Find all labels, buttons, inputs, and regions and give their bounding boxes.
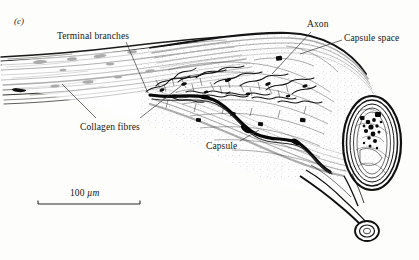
figure-panel: (c) Terminal branches Axon Capsule space…	[0, 0, 419, 260]
label-terminal-branches: Terminal branches	[57, 31, 129, 41]
label-collagen-fibres: Collagen fibres	[80, 122, 140, 132]
label-axon: Axon	[307, 19, 329, 29]
corpuscle-cross-section	[343, 96, 402, 190]
panel-identifier: (c)	[14, 16, 24, 26]
label-capsule: Capsule	[206, 141, 237, 151]
scale-bar-label: 100 µm	[70, 188, 100, 198]
scale-bar-value: 100	[70, 188, 85, 198]
scale-bar-unit: µm	[87, 188, 100, 198]
stalk-end-ring	[355, 221, 379, 241]
label-capsule-space: Capsule space	[344, 33, 399, 43]
